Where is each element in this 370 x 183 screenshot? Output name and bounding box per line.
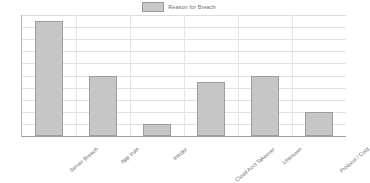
- x-axis-label-text: App Vuln: [119, 146, 140, 165]
- bar: [305, 112, 333, 136]
- x-axis-tick-mark: [48, 135, 49, 137]
- x-axis-label: Server Breach: [60, 137, 95, 155]
- bar: [35, 21, 63, 136]
- legend-label-reason-for-breach: Reason for Breach: [168, 4, 216, 10]
- bar: [89, 76, 117, 137]
- x-axis-label: App Vuln: [114, 137, 136, 155]
- x-axis-label: Protocol / Cold: [330, 137, 366, 155]
- x-axis-label-text: Server Breach: [68, 146, 99, 173]
- x-axis-label-text: Unknown: [281, 146, 302, 165]
- bar: [251, 76, 279, 137]
- x-axis-tick-mark: [102, 135, 103, 137]
- x-axis-label: Unknown: [276, 137, 299, 155]
- chart-legend: Reason for Breach: [0, 2, 358, 12]
- legend-swatch-reason-for-breach: [142, 2, 164, 12]
- x-axis-tick-mark: [318, 135, 319, 137]
- x-axis-tick-mark: [210, 135, 211, 137]
- x-axis-label: Cloud Acct Takeover: [222, 137, 272, 155]
- x-axis-labels: Server BreachApp VulnInsiderCloud Acct T…: [21, 137, 345, 178]
- x-axis-label-text: Insider: [172, 146, 189, 161]
- x-axis-label-text: Protocol / Cold: [338, 146, 369, 174]
- bar: [197, 82, 225, 136]
- x-axis-tick-mark: [156, 135, 157, 137]
- x-axis-tick-mark: [264, 135, 265, 137]
- x-axis-label-text: Cloud Acct Takeover: [234, 146, 276, 183]
- x-axis-label: Insider: [168, 137, 185, 155]
- plot-area: [21, 15, 346, 137]
- bar-series-reason-for-breach: [22, 15, 346, 136]
